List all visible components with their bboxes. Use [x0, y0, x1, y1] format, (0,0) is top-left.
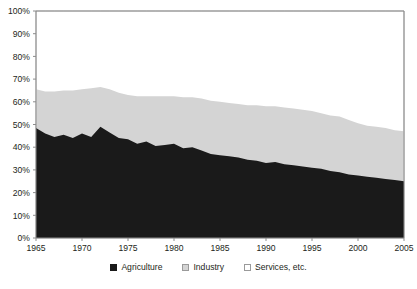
y-tick-label: 100%: [8, 6, 30, 16]
y-axis-tick-labels: 0%10%20%30%40%50%60%70%80%90%100%: [8, 6, 30, 243]
y-tick-label: 10%: [13, 211, 31, 221]
y-tick-label: 40%: [13, 142, 31, 152]
legend-item-agriculture: Agriculture: [110, 262, 162, 272]
y-tick-label: 80%: [13, 52, 31, 62]
x-tick-label: 1980: [164, 243, 183, 253]
legend-label-agriculture: Agriculture: [121, 262, 162, 272]
x-tick-label: 1965: [26, 243, 45, 253]
y-tick-label: 60%: [13, 97, 31, 107]
x-tick-label: 1970: [72, 243, 91, 253]
y-tick-label: 70%: [13, 74, 31, 84]
x-tick-label: 1985: [210, 243, 229, 253]
y-tick-label: 90%: [13, 29, 31, 39]
x-tick-label: 2005: [394, 243, 413, 253]
legend-swatch-services-icon: [244, 264, 251, 271]
x-axis-tick-labels: 196519701975198019851990199520002005: [26, 243, 413, 253]
area-series-group: [36, 11, 404, 238]
stacked-area-chart: 0%10%20%30%40%50%60%70%80%90%100% 196519…: [0, 0, 417, 289]
legend-item-industry: Industry: [182, 262, 224, 272]
y-tick-label: 20%: [13, 188, 31, 198]
legend-label-services: Services, etc.: [255, 262, 307, 272]
x-tick-label: 1975: [118, 243, 137, 253]
legend-item-services: Services, etc.: [244, 262, 307, 272]
x-tick-label: 1995: [302, 243, 321, 253]
x-tick-label: 1990: [256, 243, 275, 253]
y-tick-label: 30%: [13, 165, 31, 175]
y-tick-label: 50%: [13, 120, 31, 130]
y-tick-label: 0%: [18, 233, 31, 243]
legend-label-industry: Industry: [193, 262, 224, 272]
legend-swatch-agriculture-icon: [110, 264, 117, 271]
legend-swatch-industry-icon: [182, 264, 189, 271]
chart-plot-svg: 0%10%20%30%40%50%60%70%80%90%100% 196519…: [0, 0, 417, 289]
x-tick-label: 2000: [348, 243, 367, 253]
chart-legend: Agriculture Industry Services, etc.: [0, 258, 417, 276]
